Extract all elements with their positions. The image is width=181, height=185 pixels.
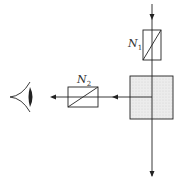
eye-icon [10,82,33,112]
polarizer-n1 [143,30,161,60]
label-n1: N1 [127,37,142,52]
arrow-down-icon [150,171,155,177]
arrow-down-icon [150,14,155,20]
arrow-left-icon [50,95,56,100]
sample-block [130,76,173,119]
label-n2: N2 [76,73,91,88]
arrow-left-icon [112,95,118,100]
optical-diagram: N1 N2 [0,0,181,185]
polarizer-n2 [68,87,98,107]
